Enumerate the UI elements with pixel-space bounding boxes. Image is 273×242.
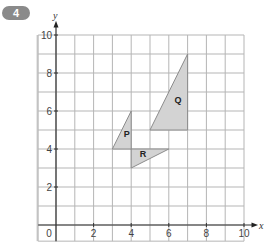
- x-axis-label: x: [258, 220, 264, 231]
- y-tick-label: 8: [46, 68, 52, 79]
- origin-label: 0: [46, 228, 52, 239]
- shape-label-q: Q: [174, 95, 181, 105]
- x-tick-label: 2: [91, 228, 97, 239]
- shape-label-r: R: [140, 149, 147, 159]
- coordinate-grid-chart: PQRxy2468102468100: [0, 0, 273, 242]
- y-tick-label: 4: [46, 144, 52, 155]
- y-tick-label: 6: [46, 106, 52, 117]
- y-axis-arrow-icon: [54, 21, 59, 28]
- x-tick-label: 10: [238, 228, 250, 239]
- shape-label-p: P: [124, 129, 130, 139]
- x-axis-arrow-icon: [252, 223, 259, 228]
- x-tick-label: 8: [204, 228, 210, 239]
- y-axis-label: y: [52, 10, 58, 21]
- x-tick-label: 4: [128, 228, 134, 239]
- y-tick-label: 10: [41, 30, 53, 41]
- y-tick-label: 2: [46, 182, 52, 193]
- x-tick-label: 6: [166, 228, 172, 239]
